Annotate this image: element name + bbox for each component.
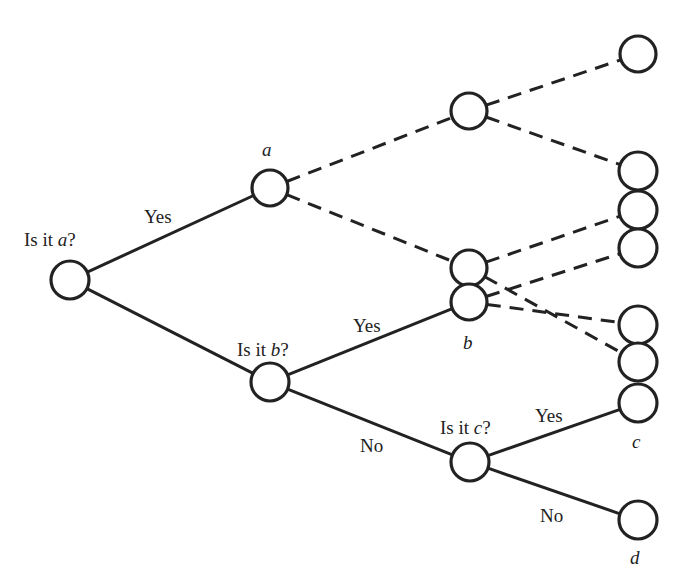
question-c-variable: c [474, 417, 482, 438]
node-r3 [619, 191, 657, 229]
edge-m2-r3 [486, 216, 620, 262]
node-d [619, 501, 657, 539]
nodes-layer [51, 36, 657, 539]
edge-m1-r2 [486, 117, 620, 165]
node-c [619, 384, 657, 422]
question-b-variable: b [271, 339, 281, 360]
node-r2 [619, 152, 657, 190]
edge-a-m1 [287, 118, 452, 182]
question-label-b: Is it b? [237, 340, 289, 359]
node-root [51, 261, 89, 299]
question-b-mark: ? [280, 339, 288, 360]
edge-label-no-isc-d: No [540, 506, 563, 525]
node-isb [251, 363, 289, 401]
edge-m2-r6 [485, 277, 622, 353]
edge-label-yes-root-a: Yes [144, 207, 172, 226]
question-label-c: Is it c? [440, 418, 491, 437]
node-r5 [619, 306, 657, 344]
edge-m1-r1 [486, 60, 621, 105]
edge-a-m2 [287, 195, 453, 262]
node-label-a: a [262, 140, 272, 159]
node-m1 [451, 93, 487, 129]
node-label-d: d [630, 548, 640, 567]
node-r6 [619, 343, 657, 381]
question-c-text: Is it [440, 417, 474, 438]
question-a-text: Is it [24, 229, 58, 250]
edge-root-isb [87, 289, 253, 374]
node-label-b: b [463, 333, 473, 352]
question-a-mark: ? [67, 229, 75, 250]
node-label-c: c [632, 432, 640, 451]
question-b-text: Is it [237, 339, 271, 360]
question-label-a: Is it a? [24, 230, 76, 249]
node-a [252, 170, 288, 206]
edge-label-no-isb-isc: No [360, 436, 383, 455]
node-b [451, 284, 487, 320]
decision-tree-diagram: Is it a? Yes a Is it b? Yes b No Is it c… [0, 0, 684, 588]
tree-canvas [0, 0, 684, 588]
edge-label-yes-isc-c: Yes [535, 406, 563, 425]
node-m2 [451, 250, 487, 286]
node-isc [451, 443, 489, 481]
edges-layer [87, 60, 622, 514]
question-a-variable: a [58, 229, 68, 250]
edge-label-yes-isb-b: Yes [353, 316, 381, 335]
node-r1 [620, 36, 656, 72]
node-r4 [619, 229, 657, 267]
question-c-mark: ? [482, 417, 490, 438]
